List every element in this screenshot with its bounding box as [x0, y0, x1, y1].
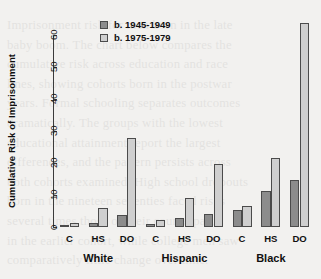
group-label-black: Black — [231, 252, 311, 264]
x-tick-label-black-hs: HS — [255, 233, 287, 244]
group-label-white: White — [58, 252, 138, 264]
y-tick-label-30: 30 — [48, 122, 62, 140]
legend-label-1: b. 1975-1979 — [114, 32, 171, 43]
bar-black-hs-series0 — [261, 191, 270, 227]
y-tick-label-20: 20 — [48, 154, 62, 172]
bar-black-do-series0 — [290, 180, 299, 227]
bar-white-c-series0 — [60, 225, 69, 227]
x-tick-label-hispanic-hs: HS — [169, 233, 201, 244]
bar-hispanic-c-series0 — [146, 224, 155, 228]
x-tick-label-white-do: DO — [111, 233, 143, 244]
x-tick-label-hispanic-do: DO — [197, 233, 229, 244]
legend-label-0: b. 1945-1949 — [114, 19, 171, 30]
bar-white-hs-series0 — [89, 223, 98, 227]
bar-hispanic-do-series0 — [204, 214, 213, 227]
y-axis-title: Cumulative Risk of Imprisonment — [6, 58, 17, 208]
y-tick-label-40: 40 — [48, 90, 62, 108]
bar-white-do-series1 — [127, 138, 136, 227]
x-tick-label-hispanic-c: C — [140, 233, 172, 244]
legend-swatch-icon-1 — [100, 34, 108, 42]
bar-hispanic-hs-series1 — [185, 198, 194, 227]
x-tick-label-black-c: C — [226, 233, 258, 244]
group-label-hispanic: Hispanic — [145, 252, 225, 264]
bar-hispanic-hs-series0 — [175, 218, 184, 227]
y-tick-label-60: 60 — [48, 26, 62, 44]
bar-hispanic-do-series1 — [214, 164, 223, 227]
y-tick-label-10: 10 — [48, 186, 62, 204]
bar-black-do-series1 — [300, 23, 309, 227]
legend-item-1: b. 1975-1979 — [100, 31, 171, 44]
legend-swatch-icon-0 — [100, 21, 108, 29]
bar-black-hs-series1 — [271, 158, 280, 227]
x-tick-label-white-hs: HS — [82, 233, 114, 244]
chart-legend: b. 1945-1949b. 1975-1979 — [100, 18, 171, 44]
bar-hispanic-c-series1 — [156, 220, 165, 227]
bar-black-c-series0 — [233, 210, 242, 227]
bar-chart: 0102030405060Cumulative Risk of Imprison… — [0, 0, 321, 279]
bar-white-hs-series1 — [98, 208, 107, 227]
bar-white-c-series1 — [70, 223, 79, 227]
bar-white-do-series0 — [117, 215, 126, 227]
legend-item-0: b. 1945-1949 — [100, 18, 171, 31]
x-tick-label-black-do: DO — [284, 233, 316, 244]
y-tick-label-50: 50 — [48, 58, 62, 76]
bar-black-c-series1 — [242, 206, 251, 227]
x-tick-label-white-c: C — [53, 233, 85, 244]
